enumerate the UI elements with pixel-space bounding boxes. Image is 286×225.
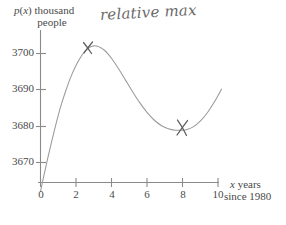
x-tick-label-0: 0	[31, 188, 51, 200]
x-tick-label-6: 6	[137, 188, 157, 200]
x-tick-label-8: 8	[173, 188, 193, 200]
population-curve	[41, 46, 222, 192]
y-tick-label-3670: 3670	[0, 155, 34, 167]
y-tick-label-3690: 3690	[0, 82, 34, 94]
y-tick-label-3700: 3700	[0, 46, 34, 58]
graph-figure: p(x) thousand people x years since 1980 …	[0, 0, 286, 225]
x-axis-label: x years since 1980	[224, 178, 271, 203]
relative-min-marker	[177, 120, 188, 136]
x-tick-label-2: 2	[66, 188, 86, 200]
relative-max-marker	[84, 42, 93, 54]
y-axis-label-line2: people	[12, 16, 104, 28]
x-tick-label-10: 10	[208, 188, 228, 200]
x-tick-label-4: 4	[102, 188, 122, 200]
x-axis-label-line2: since 1980	[224, 190, 271, 202]
y-tick-label-3680: 3680	[0, 119, 34, 131]
y-axis-label: p(x) thousand people	[12, 4, 104, 29]
